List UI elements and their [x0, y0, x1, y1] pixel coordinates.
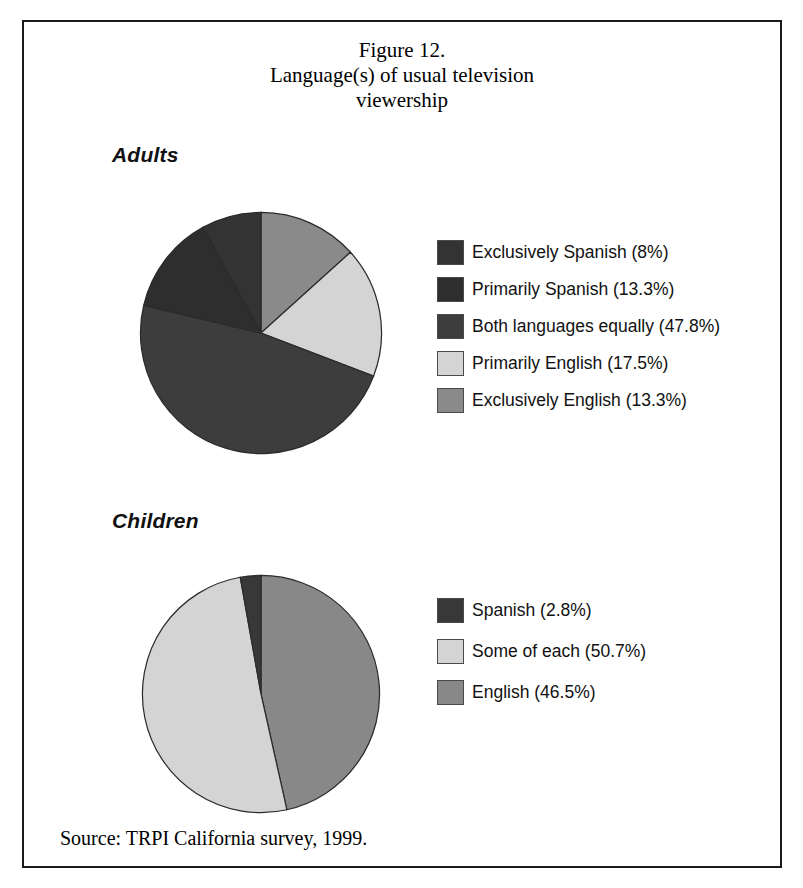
legend-label: English (46.5%)	[472, 682, 596, 703]
legend-adults: Exclusively Spanish (8%)Primarily Spanis…	[437, 234, 720, 419]
legend-row: Primarily English (17.5%)	[437, 345, 720, 382]
section-heading-adults: Adults	[112, 143, 179, 167]
legend-row: Some of each (50.7%)	[437, 631, 646, 672]
legend-label: Exclusively Spanish (8%)	[472, 242, 668, 263]
legend-row: Primarily Spanish (13.3%)	[437, 271, 720, 308]
pie-adults-svg	[138, 210, 384, 456]
pie-children-svg	[138, 573, 384, 815]
legend-label: Spanish (2.8%)	[472, 600, 592, 621]
figure-title-line-3: viewership	[24, 88, 780, 113]
pie-chart-adults	[138, 210, 384, 456]
section-heading-children: Children	[112, 509, 199, 533]
legend-swatch	[437, 680, 464, 705]
legend-swatch	[437, 388, 464, 413]
legend-swatch	[437, 639, 464, 664]
pie-chart-children	[138, 573, 384, 815]
legend-swatch	[437, 598, 464, 623]
source-note: Source: TRPI California survey, 1999.	[60, 827, 367, 850]
legend-children: Spanish (2.8%)Some of each (50.7%)Englis…	[437, 590, 646, 713]
legend-row: Exclusively English (13.3%)	[437, 382, 720, 419]
legend-label: Primarily Spanish (13.3%)	[472, 279, 674, 300]
legend-row: Spanish (2.8%)	[437, 590, 646, 631]
legend-label: Both languages equally (47.8%)	[472, 316, 720, 337]
figure-frame: Figure 12. Language(s) of usual televisi…	[22, 20, 782, 868]
legend-swatch	[437, 351, 464, 376]
legend-label: Some of each (50.7%)	[472, 641, 646, 662]
figure-title-line-2: Language(s) of usual television	[24, 63, 780, 88]
figure-title-line-1: Figure 12.	[24, 38, 780, 63]
legend-label: Exclusively English (13.3%)	[472, 390, 687, 411]
legend-row: Both languages equally (47.8%)	[437, 308, 720, 345]
legend-swatch	[437, 277, 464, 302]
legend-row: English (46.5%)	[437, 672, 646, 713]
figure-title: Figure 12. Language(s) of usual televisi…	[24, 38, 780, 113]
legend-swatch	[437, 240, 464, 265]
legend-label: Primarily English (17.5%)	[472, 353, 668, 374]
legend-swatch	[437, 314, 464, 339]
legend-row: Exclusively Spanish (8%)	[437, 234, 720, 271]
